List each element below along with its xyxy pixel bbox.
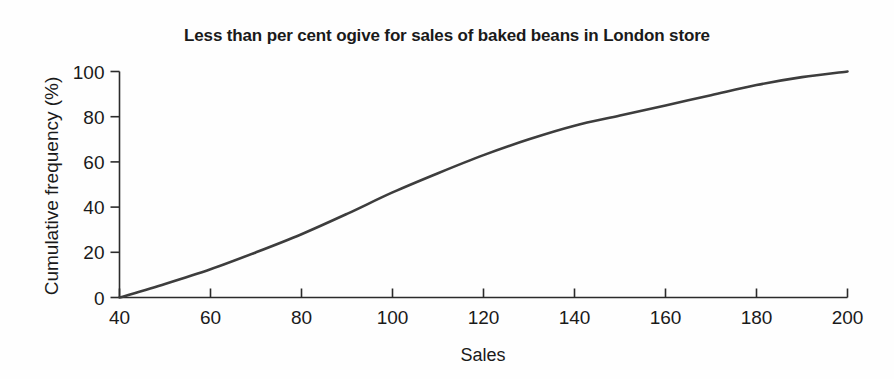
x-tick-label: 100 [377, 307, 409, 328]
x-axis: 406080100120140160180200 [109, 289, 863, 328]
y-tick-label: 0 [94, 288, 105, 309]
chart-screenshot: Less than per cent ogive for sales of ba… [0, 0, 894, 379]
y-tick-label: 20 [83, 242, 104, 263]
y-tick-label: 80 [83, 107, 104, 128]
y-tick-label: 40 [83, 197, 104, 218]
x-tick-label: 200 [832, 307, 864, 328]
ogive-curve-1 [120, 72, 848, 298]
x-tick-label: 140 [559, 307, 591, 328]
y-axis: 020406080100 [73, 62, 120, 309]
x-tick-label: 120 [468, 307, 500, 328]
x-tick-label: 60 [200, 307, 221, 328]
data-series-group [120, 72, 848, 298]
x-tick-label: 160 [650, 307, 682, 328]
x-tick-label: 80 [291, 307, 312, 328]
x-tick-label: 180 [741, 307, 773, 328]
y-tick-label: 60 [83, 152, 104, 173]
y-tick-label: 100 [73, 62, 105, 83]
plot-area: 020406080100 406080100120140160180200 [0, 0, 894, 379]
x-tick-label: 40 [109, 307, 130, 328]
